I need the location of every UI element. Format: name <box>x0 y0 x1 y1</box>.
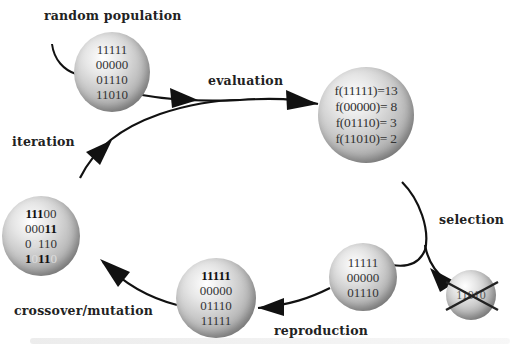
individual: 00000 <box>200 283 233 298</box>
individual: 11010 <box>96 87 128 102</box>
individual: 10110 <box>25 251 57 266</box>
crossover-mutation-label: crossover/mutation <box>14 303 153 318</box>
cross-out-icon <box>444 280 500 312</box>
individual: 11111 <box>348 255 379 270</box>
initial-population-node: 11111 00000 01110 11010 <box>74 32 150 112</box>
evaluation-arrowhead-right <box>286 90 318 110</box>
individual: 11111 <box>97 42 128 57</box>
evaluation-label: evaluation <box>208 73 283 88</box>
selected-population-node: 11111 00000 01110 <box>329 243 397 311</box>
evaluated-population-node: f(11111)=13 f(00000)= 8 f(01110)= 3 f(11… <box>318 67 414 163</box>
reproduction-arrowhead <box>258 298 284 316</box>
individual: 11111 <box>201 268 231 283</box>
offspring-population-node: 11100 00011 00110 10110 <box>2 196 80 276</box>
iteration-arrow <box>80 100 240 178</box>
individual: 00110 <box>25 236 57 251</box>
individual: 11100 <box>25 206 56 221</box>
individual: 00000 <box>347 270 380 285</box>
individual: 01110 <box>200 298 232 313</box>
fitness-value: f(01110)= 3 <box>336 115 397 131</box>
individual: 01110 <box>347 285 379 300</box>
individual: 00000 <box>96 57 129 72</box>
individual: 00011 <box>25 221 57 236</box>
iteration-label: iteration <box>12 134 75 149</box>
fitness-value: f(11111)=13 <box>334 83 397 99</box>
faded-caption <box>30 338 510 344</box>
individual: 11111 <box>201 313 232 328</box>
crossover-arrowhead <box>100 259 130 287</box>
fitness-value: f(11010)= 2 <box>335 131 396 147</box>
selection-label: selection <box>439 212 504 227</box>
fitness-value: f(00000)= 8 <box>335 99 397 115</box>
reproduction-label: reproduction <box>274 323 368 338</box>
start-arrow <box>52 44 76 74</box>
reproduced-population-node: 11111 00000 01110 11111 <box>176 258 256 338</box>
individual: 01110 <box>96 72 128 87</box>
selection-arrow <box>392 182 426 266</box>
random-population-label: random population <box>44 8 182 23</box>
